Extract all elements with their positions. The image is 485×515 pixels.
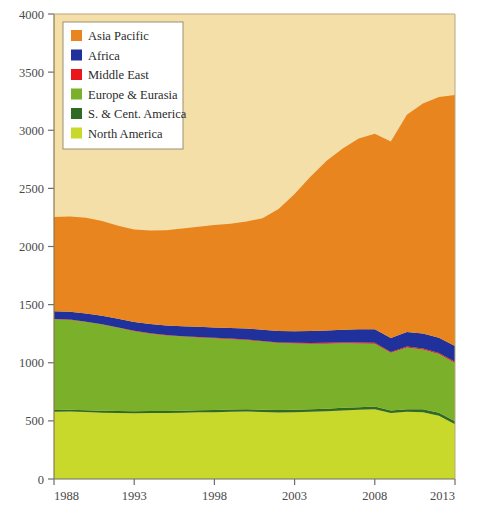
legend-swatch-north-america bbox=[71, 128, 82, 139]
legend-swatch-asia-pacific bbox=[71, 30, 82, 41]
y-axis-tick-label: 1500 bbox=[19, 298, 44, 312]
y-axis-tick-label: 2000 bbox=[19, 240, 44, 254]
y-axis-tick-label: 4000 bbox=[19, 8, 44, 22]
x-axis-tick-label: 1993 bbox=[122, 489, 147, 503]
chart-canvas: 05001000150020002500300035004000 1988199… bbox=[0, 0, 485, 515]
legend-swatch-europe-eurasia bbox=[71, 89, 82, 100]
legend-label: Europe & Eurasia bbox=[88, 88, 178, 102]
chart-legend: Asia PacificAfricaMiddle EastEurope & Eu… bbox=[63, 22, 187, 149]
x-axis-tick-label: 2013 bbox=[430, 489, 455, 503]
y-axis-tick-label: 3000 bbox=[19, 124, 44, 138]
y-axis-group: 05001000150020002500300035004000 bbox=[19, 8, 54, 487]
legend-label: S. & Cent. America bbox=[88, 107, 187, 121]
y-axis-tick-label: 1000 bbox=[19, 356, 44, 370]
legend-swatch-s-cent-america bbox=[71, 108, 82, 119]
y-axis-tick-label: 0 bbox=[38, 473, 44, 487]
x-axis-tick-label: 1988 bbox=[54, 489, 79, 503]
x-axis-tick-label: 2003 bbox=[282, 489, 307, 503]
legend-label: Middle East bbox=[88, 68, 149, 82]
legend-label: Africa bbox=[88, 49, 120, 63]
y-axis-tick-label: 2500 bbox=[19, 182, 44, 196]
legend-label: North America bbox=[88, 127, 163, 141]
area-north-america bbox=[54, 409, 455, 479]
legend-swatch-middle-east bbox=[71, 69, 82, 80]
legend-label: Asia Pacific bbox=[88, 29, 149, 43]
y-axis-tick-label: 500 bbox=[25, 414, 44, 428]
y-axis-tick-label: 3500 bbox=[19, 66, 44, 80]
stacked-area-chart: 05001000150020002500300035004000 1988199… bbox=[0, 0, 485, 515]
x-axis-tick-label: 2008 bbox=[362, 489, 387, 503]
legend-swatch-africa bbox=[71, 50, 82, 61]
x-axis-tick-label: 1998 bbox=[202, 489, 227, 503]
x-axis-group: 198819931998200320082013 bbox=[54, 479, 455, 503]
